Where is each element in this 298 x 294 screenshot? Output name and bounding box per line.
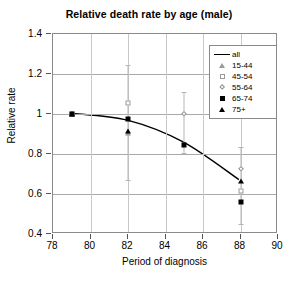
- legend-item: 75+: [213, 104, 274, 115]
- triangle-filled-icon: [213, 107, 231, 112]
- x-tick-mark: [240, 234, 241, 239]
- data-point-65-74: [182, 143, 187, 148]
- y-tick-mark: [46, 193, 51, 194]
- data-point-65-74: [238, 200, 243, 205]
- x-tick-label: 86: [196, 240, 207, 251]
- error-bar-cap: [182, 153, 187, 154]
- legend-label: 45-54: [231, 72, 252, 81]
- error-bar: [128, 65, 129, 180]
- legend-item: 45-54: [213, 71, 274, 82]
- error-bar-cap: [182, 92, 187, 93]
- triangle-open-icon: [213, 63, 231, 68]
- data-point-45-54: [238, 189, 243, 194]
- legend-label: 15-44: [231, 61, 252, 70]
- diamond-open-icon: [213, 85, 231, 89]
- x-tick-mark: [127, 234, 128, 239]
- y-tick-mark: [46, 33, 51, 34]
- error-bar: [240, 147, 241, 223]
- square-filled-icon: [213, 96, 231, 101]
- legend-label: all: [231, 50, 240, 59]
- error-bar-cap: [126, 180, 131, 181]
- x-tick-label: 88: [234, 240, 245, 251]
- legend-label: 75+: [231, 105, 246, 114]
- chart-title: Relative death rate by age (male): [0, 8, 298, 20]
- data-point-75plus: [69, 112, 75, 117]
- y-tick-label: 1: [36, 108, 42, 119]
- gridline-horizontal: [53, 154, 276, 155]
- chart-figure: Relative death rate by age (male) Relati…: [0, 0, 298, 294]
- y-tick-label: 1.4: [28, 28, 42, 39]
- y-tick-label: 0.6: [28, 188, 42, 199]
- error-bar-cap: [238, 224, 243, 225]
- gridline-vertical: [91, 34, 92, 232]
- x-tick-label: 78: [46, 240, 57, 251]
- y-tick-mark: [46, 153, 51, 154]
- x-tick-mark: [277, 234, 278, 239]
- legend-item: 55-64: [213, 82, 274, 93]
- line-icon: [213, 54, 231, 56]
- legend: all15-4445-5455-6465-7475+: [209, 45, 277, 119]
- x-tick-mark: [165, 234, 166, 239]
- x-axis-tick-labels: 78808284868890: [52, 234, 277, 254]
- legend-item: all: [213, 49, 274, 60]
- gridline-horizontal: [53, 194, 276, 195]
- error-bar-cap: [126, 65, 131, 66]
- y-tick-label: 0.8: [28, 148, 42, 159]
- legend-label: 55-64: [231, 83, 252, 92]
- gridline-vertical: [166, 34, 167, 232]
- legend-label: 65-74: [231, 94, 252, 103]
- error-bar-cap: [238, 147, 243, 148]
- x-tick-label: 90: [271, 240, 282, 251]
- data-point-45-54: [126, 101, 131, 106]
- y-tick-mark: [46, 233, 51, 234]
- x-tick-mark: [202, 234, 203, 239]
- data-point-75plus: [125, 129, 131, 134]
- y-tick-mark: [46, 73, 51, 74]
- y-tick-label: 1.2: [28, 68, 42, 79]
- legend-item: 15-44: [213, 60, 274, 71]
- square-open-icon: [213, 74, 231, 79]
- y-tick-label: 0.4: [28, 228, 42, 239]
- x-tick-mark: [90, 234, 91, 239]
- x-tick-label: 82: [121, 240, 132, 251]
- gridline-vertical: [203, 34, 204, 232]
- y-tick-mark: [46, 113, 51, 114]
- y-axis-tick-labels: 0.40.60.811.21.4: [0, 33, 50, 233]
- data-point-75plus: [238, 178, 244, 183]
- legend-item: 65-74: [213, 93, 274, 104]
- data-point-65-74: [126, 117, 131, 122]
- x-tick-label: 80: [84, 240, 95, 251]
- x-tick-mark: [52, 234, 53, 239]
- x-tick-label: 84: [159, 240, 170, 251]
- x-axis-title: Period of diagnosis: [52, 256, 277, 267]
